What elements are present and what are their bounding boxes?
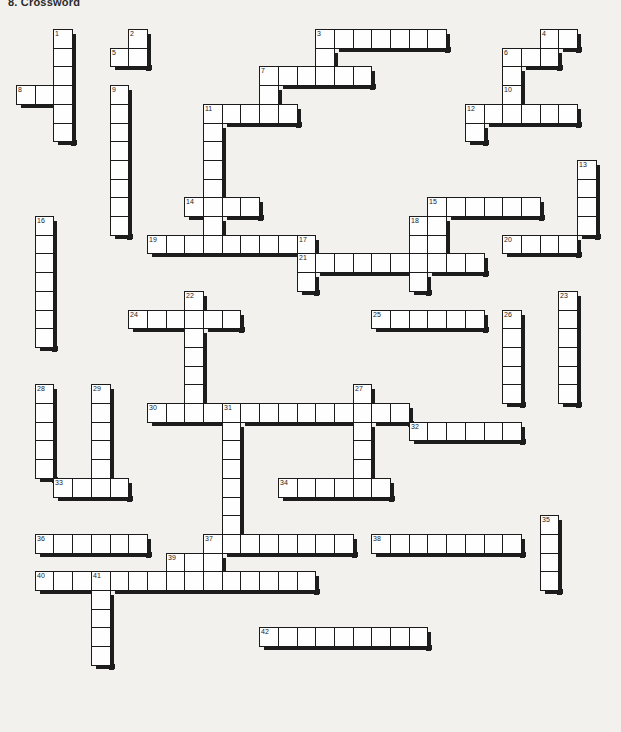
crossword-cell[interactable] [53, 85, 73, 105]
crossword-cell[interactable] [390, 627, 410, 647]
crossword-cell[interactable] [315, 253, 335, 273]
crossword-cell[interactable] [110, 48, 129, 67]
crossword-cell[interactable] [502, 85, 522, 105]
crossword-cell[interactable] [334, 29, 354, 49]
crossword-cell[interactable] [203, 179, 223, 198]
crossword-cell[interactable] [91, 384, 111, 404]
crossword-cell[interactable] [409, 534, 428, 554]
crossword-cell[interactable] [334, 403, 354, 423]
crossword-cell[interactable] [184, 291, 204, 311]
crossword-cell[interactable] [222, 534, 241, 554]
crossword-cell[interactable] [484, 422, 503, 441]
crossword-cell[interactable] [166, 235, 185, 254]
crossword-cell[interactable] [91, 403, 111, 423]
crossword-cell[interactable] [184, 347, 204, 367]
crossword-cell[interactable] [203, 534, 223, 554]
crossword-cell[interactable] [278, 403, 298, 423]
crossword-cell[interactable] [240, 534, 260, 554]
crossword-cell[interactable] [521, 104, 541, 124]
crossword-cell[interactable] [577, 216, 597, 236]
crossword-cell[interactable] [446, 534, 466, 554]
crossword-cell[interactable] [91, 571, 111, 591]
crossword-cell[interactable] [558, 366, 578, 385]
crossword-cell[interactable] [110, 534, 129, 554]
crossword-cell[interactable] [110, 478, 129, 498]
crossword-cell[interactable] [278, 627, 298, 647]
crossword-cell[interactable] [166, 571, 185, 591]
crossword-cell[interactable] [502, 422, 522, 441]
crossword-cell[interactable] [53, 478, 73, 498]
crossword-cell[interactable] [53, 571, 73, 591]
crossword-cell[interactable] [222, 459, 241, 479]
crossword-cell[interactable] [222, 197, 241, 217]
crossword-cell[interactable] [577, 160, 597, 180]
crossword-cell[interactable] [166, 310, 185, 329]
crossword-cell[interactable] [110, 85, 129, 105]
crossword-cell[interactable] [371, 253, 391, 273]
crossword-cell[interactable] [203, 310, 223, 329]
crossword-cell[interactable] [240, 235, 260, 254]
crossword-cell[interactable] [259, 104, 279, 124]
crossword-cell[interactable] [540, 534, 559, 554]
crossword-cell[interactable] [353, 627, 372, 647]
crossword-cell[interactable] [502, 328, 522, 348]
crossword-cell[interactable] [315, 48, 335, 67]
crossword-cell[interactable] [147, 310, 167, 329]
crossword-cell[interactable] [390, 29, 410, 49]
crossword-cell[interactable] [53, 48, 73, 67]
crossword-cell[interactable] [222, 422, 241, 441]
crossword-cell[interactable] [184, 366, 204, 385]
crossword-cell[interactable] [502, 104, 522, 124]
crossword-cell[interactable] [110, 160, 129, 180]
crossword-cell[interactable] [353, 29, 372, 49]
crossword-cell[interactable] [521, 235, 541, 254]
crossword-cell[interactable] [558, 104, 578, 124]
crossword-cell[interactable] [203, 104, 223, 124]
crossword-cell[interactable] [35, 384, 54, 404]
crossword-cell[interactable] [409, 216, 428, 236]
crossword-cell[interactable] [465, 253, 485, 273]
crossword-cell[interactable] [91, 534, 111, 554]
crossword-cell[interactable] [353, 66, 372, 86]
crossword-cell[interactable] [465, 123, 485, 142]
crossword-cell[interactable] [297, 272, 316, 292]
crossword-cell[interactable] [240, 197, 260, 217]
crossword-cell[interactable] [110, 104, 129, 124]
crossword-cell[interactable] [147, 571, 167, 591]
crossword-cell[interactable] [502, 366, 522, 385]
crossword-cell[interactable] [446, 422, 466, 441]
crossword-cell[interactable] [222, 310, 241, 329]
crossword-cell[interactable] [427, 534, 447, 554]
crossword-cell[interactable] [334, 627, 354, 647]
crossword-cell[interactable] [502, 48, 522, 67]
crossword-cell[interactable] [558, 384, 578, 404]
crossword-cell[interactable] [259, 627, 279, 647]
crossword-cell[interactable] [297, 478, 316, 498]
crossword-cell[interactable] [35, 534, 54, 554]
crossword-cell[interactable] [540, 235, 559, 254]
crossword-cell[interactable] [110, 179, 129, 198]
crossword-cell[interactable] [91, 609, 111, 628]
crossword-cell[interactable] [315, 534, 335, 554]
crossword-cell[interactable] [35, 403, 54, 423]
crossword-cell[interactable] [35, 459, 54, 479]
crossword-cell[interactable] [259, 66, 279, 86]
crossword-cell[interactable] [35, 85, 54, 105]
crossword-cell[interactable] [409, 253, 428, 273]
crossword-cell[interactable] [91, 440, 111, 460]
crossword-cell[interactable] [240, 571, 260, 591]
crossword-cell[interactable] [371, 403, 391, 423]
crossword-cell[interactable] [110, 141, 129, 161]
crossword-cell[interactable] [184, 553, 204, 572]
crossword-cell[interactable] [35, 216, 54, 236]
crossword-cell[interactable] [334, 478, 354, 498]
crossword-cell[interactable] [203, 141, 223, 161]
crossword-cell[interactable] [390, 310, 410, 329]
crossword-cell[interactable] [502, 384, 522, 404]
crossword-cell[interactable] [371, 29, 391, 49]
crossword-cell[interactable] [222, 440, 241, 460]
crossword-cell[interactable] [390, 253, 410, 273]
crossword-cell[interactable] [409, 272, 428, 292]
crossword-cell[interactable] [297, 253, 316, 273]
crossword-cell[interactable] [297, 66, 316, 86]
